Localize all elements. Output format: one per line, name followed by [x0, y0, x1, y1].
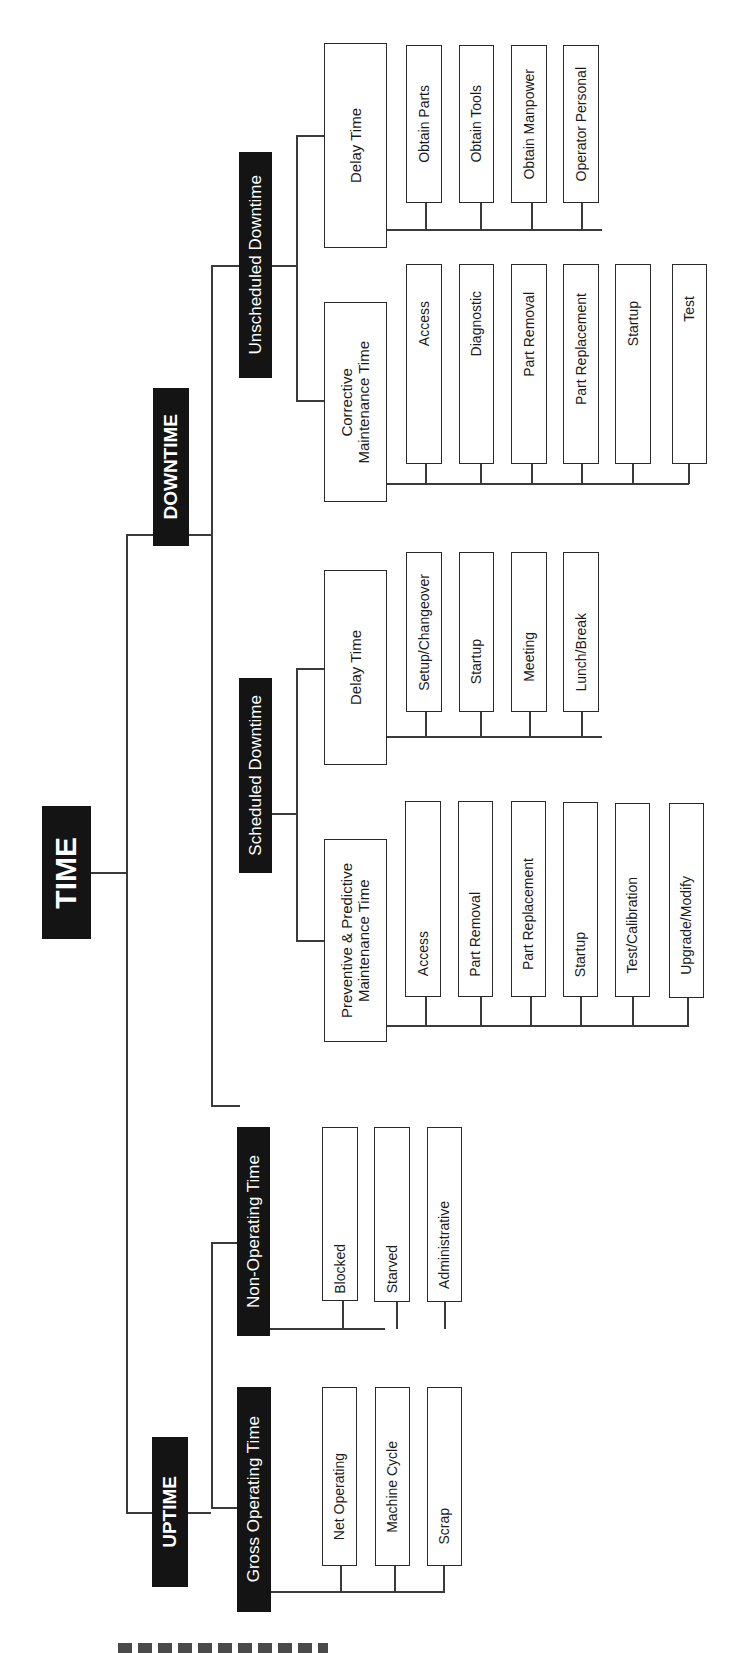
leaf-startup: Startup [615, 264, 651, 464]
leaf-part-replacement: Part Replacement [563, 264, 599, 464]
node-scheduled-downtime: Scheduled Downtime [239, 678, 272, 873]
leaf-part-removal: Part Removal [511, 264, 547, 464]
connector-line [529, 711, 531, 737]
cutoff-caption-fragment [118, 1641, 328, 1653]
leaf-label: Diagnostic [468, 291, 484, 356]
leaf-obtain-parts: Obtain Parts [406, 45, 442, 203]
node-gross-operating-time: Gross Operating Time [237, 1387, 271, 1612]
connector-line [530, 997, 532, 1026]
connector-line [425, 203, 427, 230]
connector-line [342, 1301, 344, 1329]
leaf-test: Test [672, 264, 707, 464]
connector-line [269, 1591, 445, 1593]
leaf-upgrade-modify: Upgrade/Modify [669, 803, 704, 998]
connector-line [188, 1512, 211, 1514]
node-time: TIME [42, 806, 91, 939]
connector-line [211, 1507, 237, 1509]
leaf-label: Upgrade/Modify [678, 876, 694, 975]
leaf-label: Part Replacement [573, 293, 589, 405]
node-label: DOWNTIME [160, 414, 182, 520]
node-label: TIME [49, 837, 84, 909]
leaf-blocked: Blocked [322, 1127, 358, 1301]
connector-line [269, 1328, 385, 1330]
leaf-label: Access [416, 301, 432, 346]
connector-line [340, 1565, 342, 1592]
connector-line [444, 1301, 446, 1329]
node-label: Corrective Maintenance Time [338, 341, 373, 464]
node-non-operating-time: Non-Operating Time [237, 1127, 270, 1336]
leaf-label: Part Removal [467, 892, 483, 977]
leaf-operator-personal: Operator Personal [563, 45, 599, 203]
leaf-label: Meeting [521, 632, 537, 682]
leaf-diagnostic: Diagnostic [459, 264, 494, 464]
leaf-label: Access [415, 931, 431, 976]
node-scheduled-delay-time: Delay Time [324, 570, 387, 765]
node-downtime: DOWNTIME [153, 388, 189, 546]
leaf-setup-changeover: Setup/Changeover [406, 552, 442, 712]
leaf-label: Startup [468, 639, 484, 684]
leaf-label: Obtain Tools [468, 85, 484, 163]
node-label: Non-Operating Time [244, 1155, 264, 1308]
leaf-label: Startup [572, 932, 588, 977]
connector-line [443, 1565, 445, 1592]
connector-line [480, 203, 482, 230]
connector-line [189, 534, 211, 536]
connector-line [272, 265, 296, 267]
node-label: Delay Time [347, 108, 364, 183]
leaf-startup: Startup [459, 552, 494, 712]
leaf-label: Part Replacement [520, 858, 536, 970]
connector-line [580, 997, 582, 1026]
connector-line [480, 711, 482, 737]
leaf-access: Access [406, 264, 442, 464]
connector-line [480, 997, 482, 1026]
leaf-machine-cycle: Machine Cycle [375, 1387, 410, 1566]
connector-line [386, 483, 689, 485]
leaf-label: Machine Cycle [384, 1441, 400, 1533]
connector-line [386, 736, 602, 738]
node-label: Delay Time [347, 630, 364, 705]
node-uptime: UPTIME [152, 1437, 188, 1587]
leaf-label: Net Operating [331, 1453, 347, 1540]
connector-line [396, 1301, 398, 1329]
leaf-meeting: Meeting [511, 552, 547, 712]
leaf-label: Part Removal [521, 292, 537, 377]
connector-line [91, 872, 127, 874]
leaf-administrative: Administrative [427, 1127, 462, 1302]
leaf-startup: Startup [563, 802, 598, 997]
connector-line [211, 265, 213, 1106]
leaf-obtain-manpower: Obtain Manpower [511, 45, 547, 203]
leaf-scrap: Scrap [427, 1387, 462, 1566]
node-unscheduled-downtime: Unscheduled Downtime [239, 152, 272, 378]
connector-line [632, 997, 634, 1026]
leaf-label: Obtain Parts [416, 85, 432, 163]
connector-line [126, 1512, 152, 1514]
connector-line [386, 229, 602, 231]
leaf-obtain-tools: Obtain Tools [459, 45, 494, 203]
connector-line [581, 203, 583, 230]
node-label: Scheduled Downtime [246, 695, 266, 856]
connector-line [211, 1105, 240, 1107]
leaf-label: Obtain Manpower [521, 69, 537, 180]
leaf-label: Lunch/Break [573, 613, 589, 692]
leaf-starved: Starved [374, 1127, 410, 1302]
connector-line [296, 135, 298, 400]
connector-line [687, 997, 689, 1026]
leaf-label: Administrative [436, 1201, 452, 1289]
connector-line [531, 203, 533, 230]
connector-line [211, 1242, 237, 1244]
leaf-lunch-break: Lunch/Break [563, 552, 599, 712]
leaf-label: Starved [384, 1245, 400, 1293]
connector-line [394, 1565, 396, 1592]
leaf-part-replacement: Part Replacement [511, 801, 546, 997]
connector-line [425, 711, 427, 737]
leaf-test-calibration: Test/Calibration [615, 803, 650, 997]
connector-line [425, 997, 427, 1026]
leaf-net-operating: Net Operating [322, 1387, 357, 1566]
leaf-label: Setup/Changeover [416, 574, 432, 691]
leaf-label: Startup [625, 301, 641, 346]
connector-line [581, 711, 583, 737]
leaf-label: Test [681, 296, 697, 322]
leaf-label: Blocked [332, 1244, 348, 1294]
connector-line [272, 813, 296, 815]
leaf-label: Scrap [436, 1508, 452, 1545]
